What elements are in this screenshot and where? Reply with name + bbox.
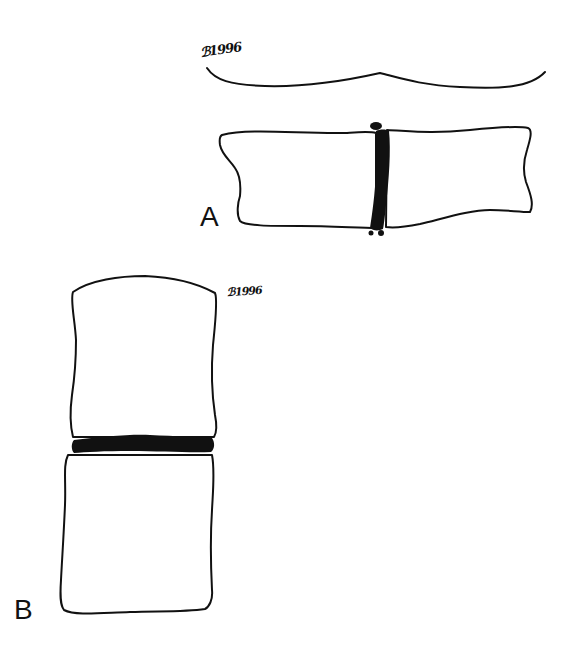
panel-b-artist-signature: ℬ1996: [227, 284, 262, 299]
panel-a-label: A: [200, 203, 219, 231]
panel-b-upper-vertebra: [71, 276, 217, 437]
panel-b-label: B: [14, 596, 33, 624]
panel-b-lower-vertebra: [60, 455, 213, 614]
illustration-canvas: [0, 0, 570, 647]
panel-a-top-curve: [207, 68, 545, 88]
panel-a-left-vertebra: [220, 132, 376, 228]
vertebrae-illustration: ℬ1996 ℬ1996 A B: [0, 0, 570, 647]
panel-a-osteophyte-top: [370, 122, 382, 130]
panel-a-right-vertebra: [386, 127, 532, 227]
panel-a-osteophyte-bottom-right: [378, 230, 384, 236]
panel-a-osteophyte-bottom-left: [369, 231, 374, 236]
